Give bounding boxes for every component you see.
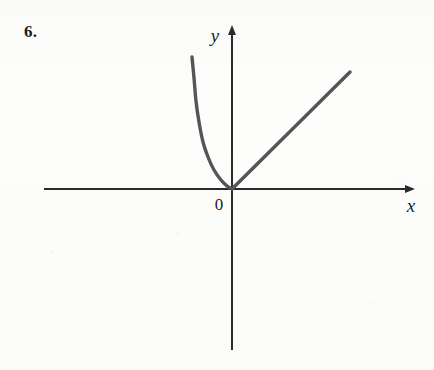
figure-page: 6. y x 0 <box>0 0 434 370</box>
graph-figure: y x 0 <box>0 0 434 370</box>
curve-left-branch <box>192 57 232 189</box>
x-axis-label: x <box>406 195 416 216</box>
curve-right-branch <box>232 72 350 189</box>
y-axis-label: y <box>209 25 220 46</box>
origin-label: 0 <box>215 195 224 214</box>
